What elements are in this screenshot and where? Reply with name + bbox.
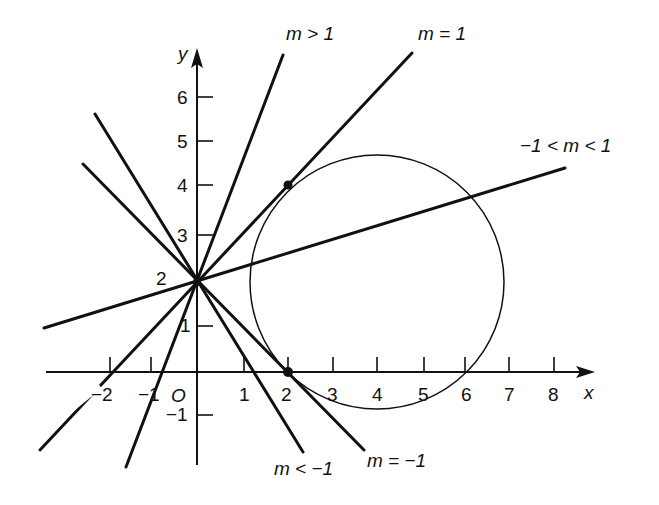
x-tick-label: 5 <box>418 384 429 405</box>
y-axis-label: y <box>176 43 189 64</box>
y-tick-label: 2 <box>156 268 167 289</box>
y-tick-label: 4 <box>177 175 188 196</box>
point-tangent-lower <box>283 367 293 377</box>
x-tick-label: 2 <box>281 384 292 405</box>
x-tick-label: 3 <box>327 384 338 405</box>
origin-label: O <box>171 385 186 406</box>
y-tick-label: 6 <box>177 87 188 108</box>
y-tick-label: −1 <box>166 404 188 425</box>
y-axis <box>191 48 213 465</box>
label-unit-negative: m = −1 <box>367 450 426 471</box>
y-tick-label: 3 <box>177 225 188 246</box>
y-tick-label: 1 <box>180 315 191 336</box>
slope-diagram: y x O −2 −1 1 2 3 4 5 6 7 8 −1 1 2 3 4 5… <box>0 0 659 505</box>
x-tick-label: 6 <box>461 384 472 405</box>
label-shallow: −1 < m < 1 <box>520 135 611 156</box>
label-steep-positive: m > 1 <box>286 23 334 44</box>
line-shallow <box>44 168 565 328</box>
label-unit-positive: m = 1 <box>418 23 466 44</box>
x-tick-label: −1 <box>138 384 160 405</box>
line-unit-negative <box>83 164 364 450</box>
x-axis <box>46 357 595 378</box>
x-tick-label: 1 <box>239 384 250 405</box>
x-tick-label: 4 <box>372 384 383 405</box>
label-steep-negative: m < −1 <box>274 458 333 479</box>
x-axis-label: x <box>583 382 595 403</box>
x-tick-label: 7 <box>504 384 515 405</box>
x-tick-label: −2 <box>91 384 113 405</box>
point-common <box>193 278 201 286</box>
point-tangent-upper <box>284 181 293 190</box>
y-tick-label: 5 <box>177 131 188 152</box>
x-tick-label: 8 <box>548 384 559 405</box>
